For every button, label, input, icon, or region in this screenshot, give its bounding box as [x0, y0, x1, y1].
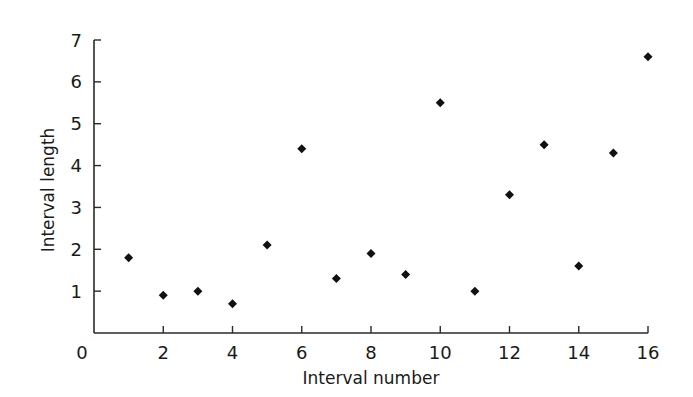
- y-tick-label: 3: [71, 197, 82, 218]
- data-point-marker: [124, 253, 133, 262]
- x-tick-label: 14: [567, 342, 590, 363]
- data-point-marker: [367, 249, 376, 258]
- x-tick-label: 8: [365, 342, 376, 363]
- data-point-marker: [436, 98, 445, 107]
- data-point-marker: [609, 149, 618, 158]
- x-tick-label: 16: [637, 342, 660, 363]
- y-tick-label: 2: [71, 239, 82, 260]
- x-axis: 0246810121416: [76, 326, 659, 363]
- x-tick-label: 10: [429, 342, 452, 363]
- data-point-marker: [159, 291, 168, 300]
- data-point-marker: [574, 262, 583, 271]
- data-point-marker: [332, 274, 341, 283]
- y-axis: 1234567: [71, 30, 101, 334]
- data-point-marker: [263, 241, 272, 250]
- y-axis-title: Interval length: [38, 128, 58, 253]
- data-point-marker: [297, 144, 306, 153]
- data-point-marker: [193, 287, 202, 296]
- x-tick-label: 0: [76, 342, 87, 363]
- x-axis-title: Interval number: [303, 368, 440, 388]
- data-points: [124, 52, 652, 308]
- data-point-marker: [470, 287, 479, 296]
- data-point-marker: [228, 299, 237, 308]
- data-point-marker: [540, 140, 549, 149]
- data-point-marker: [644, 52, 653, 61]
- x-tick-label: 2: [158, 342, 169, 363]
- y-tick-label: 7: [71, 30, 82, 51]
- scatter-chart: 1234567 0246810121416 Interval number In…: [0, 0, 693, 397]
- y-tick-label: 5: [71, 113, 82, 134]
- y-tick-label: 4: [71, 155, 82, 176]
- data-point-marker: [401, 270, 410, 279]
- x-tick-label: 6: [296, 342, 307, 363]
- data-point-marker: [505, 190, 514, 199]
- y-tick-label: 1: [71, 281, 82, 302]
- x-tick-label: 12: [498, 342, 521, 363]
- y-tick-label: 6: [71, 71, 82, 92]
- chart-canvas: 1234567 0246810121416 Interval number In…: [0, 0, 693, 397]
- x-tick-label: 4: [227, 342, 238, 363]
